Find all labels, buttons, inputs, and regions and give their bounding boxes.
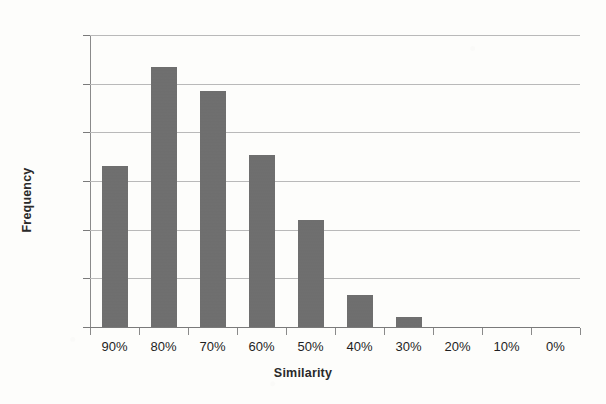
x-tick-label: 50% [283, 339, 339, 354]
x-tick-mark [580, 328, 581, 335]
x-tick-mark [188, 328, 189, 335]
bar [200, 91, 226, 327]
x-axis-title: Similarity [0, 366, 606, 380]
x-tick-label: 0% [528, 339, 584, 354]
x-tick-label: 10% [479, 339, 535, 354]
x-tick-mark [482, 328, 483, 335]
bar [102, 166, 128, 327]
x-tick-mark [237, 328, 238, 335]
plot-area [90, 35, 580, 327]
x-tick-mark [433, 328, 434, 335]
y-axis-title: Frequency [14, 140, 38, 260]
x-tick-mark [90, 328, 91, 335]
bar-chart: Frequency 0%5%10%15%20%25%30% 90%80%70%6… [0, 0, 606, 404]
bar [249, 155, 275, 327]
x-tick-mark [335, 328, 336, 335]
x-tick-mark [384, 328, 385, 335]
x-tick-label: 40% [332, 339, 388, 354]
gridline [90, 35, 580, 36]
x-tick-mark [139, 328, 140, 335]
y-axis-title-label: Frequency [19, 167, 33, 232]
x-tick-label: 70% [185, 339, 241, 354]
bar [151, 67, 177, 327]
x-tick-label: 80% [136, 339, 192, 354]
x-tick-label: 30% [381, 339, 437, 354]
x-tick-mark [286, 328, 287, 335]
x-tick-label: 90% [87, 339, 143, 354]
x-axis-title-label: Similarity [274, 366, 332, 380]
x-tick-mark [531, 328, 532, 335]
x-tick-label: 60% [234, 339, 290, 354]
bar [396, 317, 422, 327]
bar [347, 295, 373, 327]
bar [298, 220, 324, 327]
x-tick-label: 20% [430, 339, 486, 354]
